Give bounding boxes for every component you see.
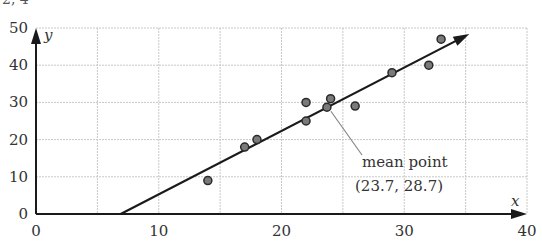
x-tick-label: 10 <box>149 222 168 240</box>
y-tick-label: 40 <box>9 56 28 74</box>
fit-line-arrow-icon <box>453 34 470 46</box>
y-axis-label: y <box>43 26 53 44</box>
y-tick-label: 30 <box>9 93 28 111</box>
data-point <box>425 61 433 69</box>
data-point <box>437 35 445 43</box>
mean-point-annotation: mean point (23.7, 28.7) <box>331 111 448 195</box>
annotation-leader-line <box>331 111 362 155</box>
x-axis-arrow-icon <box>511 209 527 219</box>
data-point <box>302 98 310 106</box>
y-axis-arrow-icon <box>31 28 41 44</box>
data-point <box>388 69 396 77</box>
scatter-chart: 2, 4 01020304001020304050 mean point (23… <box>0 0 542 246</box>
data-point <box>327 95 335 103</box>
data-point <box>302 117 310 125</box>
y-tick-label: 0 <box>18 205 28 223</box>
y-tick-label: 20 <box>9 131 28 149</box>
annotation-coordinates: (23.7, 28.7) <box>355 177 443 195</box>
data-point <box>351 102 359 110</box>
data-point <box>204 177 212 185</box>
data-point <box>323 103 331 111</box>
x-tick-label: 30 <box>395 222 414 240</box>
x-axis-label: x <box>511 192 520 210</box>
grid-lines <box>36 28 527 214</box>
data-point <box>241 143 249 151</box>
cutoff-text: 2, 4 <box>2 0 29 7</box>
y-tick-label: 50 <box>9 19 28 37</box>
annotation-label: mean point <box>362 153 448 171</box>
axes <box>31 28 527 219</box>
x-tick-label: 40 <box>517 222 536 240</box>
x-tick-label: 20 <box>272 222 291 240</box>
data-point <box>253 136 261 144</box>
x-tick-label: 0 <box>31 222 41 240</box>
tick-labels: 01020304001020304050 <box>9 19 537 240</box>
y-tick-label: 10 <box>9 168 28 186</box>
